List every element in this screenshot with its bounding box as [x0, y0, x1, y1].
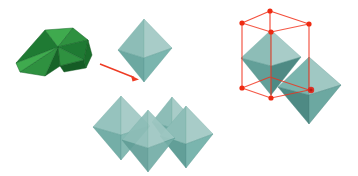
figure-root: Octahedron net folding into octahedron a… — [0, 0, 358, 176]
single-octahedron-group — [118, 19, 172, 82]
cube-edge-back-top-right — [270, 11, 309, 24]
cube-vertex-dot — [306, 21, 311, 26]
cube-lattice-group — [239, 8, 341, 124]
cube-edge-front-top-right — [271, 24, 309, 32]
geometry-figure — [0, 0, 358, 176]
cube-vertex-dot — [239, 20, 244, 25]
fold-arrow-shaft — [100, 64, 134, 78]
cube-edge-front-top-left — [242, 23, 271, 32]
cube-vertex-dot — [239, 85, 244, 90]
cube-vertex-dot — [268, 95, 273, 100]
cube-edge-back-top-left — [242, 11, 270, 23]
cube-vertex-dot — [267, 8, 272, 13]
fold-arrow-head — [131, 76, 139, 82]
octahedron-center-marker-core — [309, 88, 312, 91]
green-net-panel — [16, 28, 92, 76]
octahedron-cluster-group — [93, 96, 213, 172]
cube-vertex-dot — [268, 29, 273, 34]
